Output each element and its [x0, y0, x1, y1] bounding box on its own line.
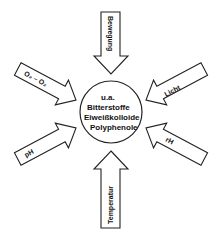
arrow-up-left-icon [139, 116, 210, 172]
arrow-rh [139, 116, 210, 172]
arrow-down-right-icon [11, 57, 82, 113]
arrow-ph: pH [11, 116, 82, 172]
arrow-up-right-icon [11, 116, 82, 172]
arrow-temperatur: Temperatur [94, 151, 128, 228]
center-line-3: Eiweißkolloide [84, 113, 140, 122]
center-line-1: u.a. [101, 93, 115, 102]
arrow-bewegung: Bewegung [94, 12, 128, 74]
influence-diagram: u.a. Bitterstoffe Eiweißkolloide Polyphe… [0, 0, 218, 232]
center-line-2: Bitterstoffe [87, 103, 130, 112]
center-node: u.a. Bitterstoffe Eiweißkolloide Polyphe… [80, 81, 142, 143]
arrow-label-temperatur: Temperatur [107, 186, 115, 224]
arrow-label-bewegung: Bewegung [106, 16, 114, 51]
center-line-4: Polyphenole [90, 123, 138, 132]
arrow-o2: O₂ – O₂ [11, 57, 82, 113]
